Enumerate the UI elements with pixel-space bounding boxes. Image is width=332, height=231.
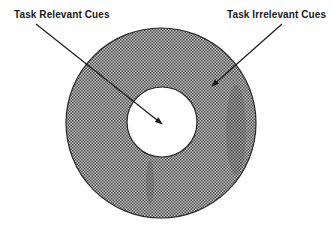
- diagram-canvas: [0, 0, 332, 231]
- cue-diagram: Task Relevant Cues Task Irrelevant Cues: [0, 0, 332, 231]
- ring-shading: [226, 85, 246, 175]
- inner-circle-task-relevant: [127, 87, 197, 157]
- ring-shading: [146, 160, 154, 204]
- label-task-irrelevant-cues: Task Irrelevant Cues: [227, 9, 326, 20]
- label-task-relevant-cues: Task Relevant Cues: [14, 9, 110, 20]
